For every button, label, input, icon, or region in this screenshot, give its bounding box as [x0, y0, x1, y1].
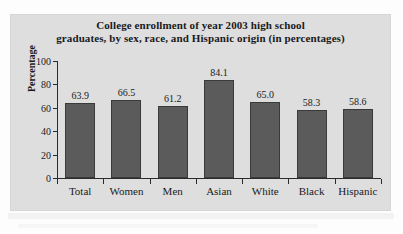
- bar[interactable]: [204, 80, 234, 178]
- bar[interactable]: [111, 100, 141, 178]
- x-tick-mark: [57, 179, 58, 184]
- x-axis-category-label: Black: [299, 185, 325, 197]
- x-tick-mark: [381, 179, 382, 184]
- x-tick-mark: [103, 179, 104, 184]
- bar-value-label: 58.6: [349, 96, 367, 107]
- y-tick-label: 100: [36, 56, 51, 67]
- x-axis-category-label: Hispanic: [338, 185, 377, 197]
- chart-panel: College enrollment of year 2003 high sch…: [10, 14, 391, 211]
- bar-value-label: 65.0: [257, 89, 275, 100]
- y-tick-label: 60: [41, 102, 51, 113]
- x-axis-category-label: Asian: [206, 185, 232, 197]
- bar-group[interactable]: 66.5Women: [103, 61, 149, 178]
- bar-value-label: 63.9: [71, 90, 89, 101]
- chart-title: College enrollment of year 2003 high sch…: [24, 19, 377, 45]
- bar-value-label: 84.1: [210, 67, 228, 78]
- scan-artifact-band: [18, 224, 318, 228]
- bar-value-label: 61.2: [164, 93, 182, 104]
- bar-group[interactable]: 63.9Total: [57, 61, 103, 178]
- bar-group[interactable]: 84.1Asian: [196, 61, 242, 178]
- x-tick-mark: [335, 179, 336, 184]
- y-axis-title: Percentage: [26, 45, 37, 92]
- scanned-page: College enrollment of year 2003 high sch…: [0, 0, 403, 234]
- x-axis-category-label: White: [252, 185, 279, 197]
- y-tick-label: 20: [41, 149, 51, 160]
- bar-group[interactable]: 58.6Hispanic: [335, 61, 381, 178]
- bar-value-label: 66.5: [118, 87, 136, 98]
- bar[interactable]: [65, 103, 95, 178]
- x-tick-mark: [150, 179, 151, 184]
- bar[interactable]: [297, 110, 327, 178]
- bar-value-label: 58.3: [303, 97, 321, 108]
- chart-title-line-2: graduates, by sex, race, and Hispanic or…: [24, 32, 377, 45]
- x-axis-category-label: Total: [69, 185, 91, 197]
- x-tick-mark: [288, 179, 289, 184]
- chart-title-line-1: College enrollment of year 2003 high sch…: [24, 19, 377, 32]
- x-axis-line: [57, 178, 381, 179]
- y-tick-label: 0: [46, 173, 51, 184]
- plot-area: 020406080100 63.9Total66.5Women61.2Men84…: [57, 61, 381, 178]
- x-tick-mark: [242, 179, 243, 184]
- bar-group[interactable]: 61.2Men: [150, 61, 196, 178]
- bar[interactable]: [343, 109, 373, 178]
- y-tick-label: 40: [41, 126, 51, 137]
- bar-group[interactable]: 58.3Black: [288, 61, 334, 178]
- x-tick-mark: [196, 179, 197, 184]
- bar-group[interactable]: 65.0White: [242, 61, 288, 178]
- scan-artifact-band: [8, 213, 394, 219]
- x-axis-category-label: Women: [109, 185, 143, 197]
- y-tick-label: 80: [41, 79, 51, 90]
- bar[interactable]: [250, 102, 280, 178]
- x-axis-category-label: Men: [163, 185, 183, 197]
- bar[interactable]: [158, 106, 188, 178]
